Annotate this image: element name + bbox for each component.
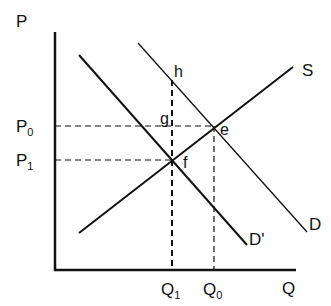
point-h-label: h — [174, 63, 183, 80]
x-axis-label: Q — [282, 279, 295, 298]
point-g-label: g — [160, 110, 169, 127]
supply-demand-diagram: P Q P0 P1 Q1 Q0 S D D' h g e f — [0, 0, 331, 306]
point-f-label: f — [183, 154, 188, 171]
p1-label: P1 — [16, 151, 33, 172]
d-prime-curve-label: D' — [249, 230, 265, 249]
q0-label: Q0 — [203, 280, 222, 301]
q1-label: Q1 — [161, 280, 180, 301]
d-curve-label: D — [309, 215, 321, 234]
s-curve-label: S — [302, 61, 313, 80]
p0-label: P0 — [16, 117, 33, 138]
y-axis-label: P — [16, 12, 27, 31]
demand-curve-d-prime — [79, 55, 247, 245]
point-e-label: e — [220, 121, 229, 138]
